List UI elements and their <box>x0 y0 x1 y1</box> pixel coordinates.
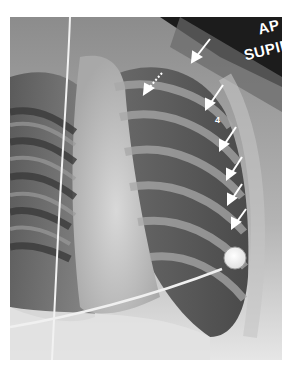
rib-number-label: 4 <box>215 115 220 125</box>
ecg-electrode <box>224 247 246 269</box>
xray-canvas <box>10 17 282 360</box>
xray-image: AP SUPINE 4 <box>10 17 282 360</box>
